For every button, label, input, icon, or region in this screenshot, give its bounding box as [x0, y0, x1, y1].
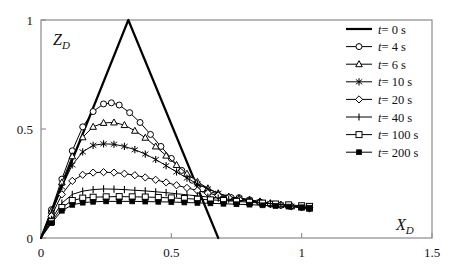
legend-label-1: t= 4 s: [378, 40, 406, 54]
marker-filled-square-1: [49, 221, 54, 226]
y-axis-title-sub: D: [61, 39, 70, 51]
marker-filled-square-4: [80, 200, 85, 205]
marker-circle-9: [127, 110, 133, 116]
marker-circle-14: [179, 167, 185, 173]
marker-filled-square-8: [130, 199, 135, 204]
marker-filled-square-22: [307, 205, 312, 210]
marker-circle-4: [80, 124, 86, 130]
legend-label-2: t= 6 s: [378, 58, 406, 72]
legend-label-5: t= 40 s: [378, 111, 412, 125]
marker-circle-leg1: [356, 44, 362, 50]
marker-square-leg6: [356, 132, 362, 138]
marker-filled-square-19: [273, 204, 278, 209]
marker-filled-square-10: [156, 199, 161, 204]
marker-circle-10: [137, 119, 143, 125]
marker-filled-square-21: [299, 205, 304, 210]
marker-filled-square-6: [104, 199, 109, 204]
x-tick-label-2: 1: [298, 245, 305, 260]
legend-label-4: t= 20 s: [378, 93, 412, 107]
marker-filled-square-13: [195, 201, 200, 206]
marker-circle-6: [101, 101, 107, 107]
y-tick-label-0: 0: [27, 231, 34, 246]
marker-filled-square-9: [143, 199, 148, 204]
marker-filled-square-12: [182, 200, 187, 205]
marker-circle-5: [90, 109, 96, 115]
y-tick-label-1: 0.5: [17, 122, 33, 137]
marker-filled-square-16: [234, 202, 239, 207]
x-tick-label-3: 1.5: [424, 245, 440, 260]
marker-filled-square-leg7: [357, 150, 362, 155]
legend-label-3: t= 10 s: [378, 75, 412, 89]
x-axis-title-sub: D: [405, 224, 414, 236]
marker-filled-square-7: [117, 199, 122, 204]
marker-circle-11: [147, 131, 153, 137]
x-tick-label-0: 0: [38, 245, 45, 260]
marker-filled-square-14: [208, 201, 213, 206]
marker-filled-square-18: [260, 203, 265, 208]
marker-filled-square-20: [286, 204, 291, 209]
marker-circle-8: [116, 102, 122, 108]
marker-filled-square-15: [221, 201, 226, 206]
marker-filled-square-5: [91, 199, 96, 204]
chart-figure: 00.511.500.51ZDXDt= 0 st= 4 st= 6 st= 10…: [0, 0, 450, 276]
y-tick-label-2: 1: [27, 13, 34, 28]
marker-circle-7: [108, 100, 114, 106]
marker-filled-square-2: [59, 208, 64, 213]
marker-filled-square-17: [247, 202, 252, 207]
marker-filled-square-11: [169, 200, 174, 205]
legend-label-6: t= 100 s: [378, 128, 419, 142]
chart-svg: 00.511.500.51ZDXDt= 0 st= 4 st= 6 st= 10…: [0, 0, 450, 276]
marker-filled-square-3: [70, 202, 75, 207]
x-tick-label-1: 0.5: [163, 245, 179, 260]
legend-label-0: t= 0 s: [378, 23, 406, 37]
legend-label-7: t= 200 s: [378, 146, 419, 160]
